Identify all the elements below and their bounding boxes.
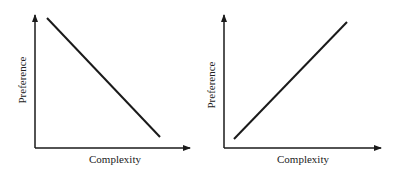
- data-line-decreasing: [47, 18, 160, 137]
- chart-right: Preference Complexity: [205, 15, 381, 165]
- data-line-increasing: [234, 22, 347, 139]
- y-axis-label: Preference: [205, 61, 217, 108]
- y-axis-label: Preference: [16, 56, 28, 103]
- x-axis-label: Complexity: [89, 153, 141, 165]
- charts-figure: Preference Complexity Preference Complex…: [0, 0, 397, 174]
- chart-left: Preference Complexity: [16, 15, 190, 165]
- x-axis-label: Complexity: [277, 153, 329, 165]
